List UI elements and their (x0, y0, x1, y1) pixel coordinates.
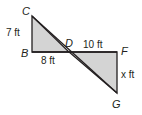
measure-bd: 8 ft (41, 55, 55, 66)
measure-cb: 7 ft (6, 27, 20, 38)
vertex-label-f: F (121, 45, 129, 57)
vertex-label-b: B (21, 47, 28, 59)
measure-df: 10 ft (83, 39, 103, 50)
similar-triangles-diagram: C B D F G 7 ft 8 ft 10 ft x ft (0, 0, 142, 115)
vertex-label-g: G (112, 98, 121, 110)
vertex-label-c: C (22, 5, 30, 17)
measure-fg: x ft (121, 69, 135, 80)
vertex-label-d: D (65, 37, 73, 49)
